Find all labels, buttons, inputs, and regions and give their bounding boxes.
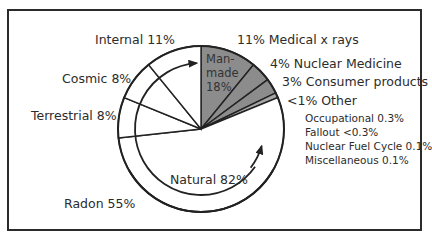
label-medical: 11% Medical x rays — [237, 32, 359, 47]
label-manmade: Man- made 18% — [206, 52, 239, 94]
label-manmade-line3: 18% — [206, 80, 239, 94]
label-fuel-cycle: Nuclear Fuel Cycle 0.1% — [305, 140, 432, 152]
label-occupational: Occupational 0.3% — [305, 112, 404, 124]
label-manmade-line2: made — [206, 66, 239, 80]
label-terrestrial: Terrestrial 8% — [31, 108, 117, 123]
label-fallout: Fallout <0.3% — [305, 126, 378, 138]
label-miscellaneous: Miscellaneous 0.1% — [305, 154, 409, 166]
label-cosmic: Cosmic 8% — [62, 71, 131, 86]
label-internal: Internal 11% — [95, 32, 175, 47]
label-consumer-products: 3% Consumer products — [282, 74, 428, 89]
label-nuclear-medicine: 4% Nuclear Medicine — [270, 56, 402, 71]
label-other: <1% Other — [287, 93, 357, 108]
label-radon: Radon 55% — [64, 196, 135, 211]
label-natural: Natural 82% — [170, 172, 248, 187]
label-manmade-line1: Man- — [206, 52, 239, 66]
